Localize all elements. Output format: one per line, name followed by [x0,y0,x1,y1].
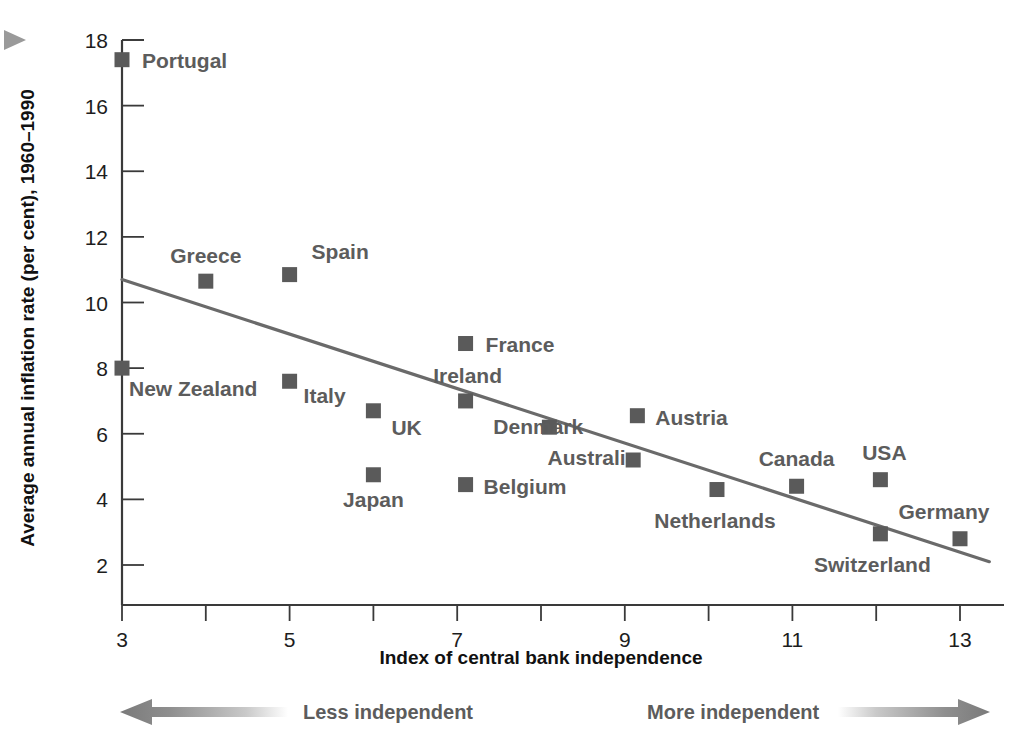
data-point: Belgium [458,475,566,498]
y-tick-label: 10 [85,292,108,315]
y-axis-title: Average annual inflation rate (per cent)… [17,89,38,547]
data-point-label: Australia [548,446,638,469]
data-point-marker [458,477,473,492]
data-point-marker [198,274,213,289]
x-tick-label: 5 [284,628,296,651]
data-point-marker [458,393,473,408]
y-tick-label: 2 [96,554,108,577]
data-point-label: USA [862,441,906,464]
data-point: New Zealand [115,361,258,401]
data-point-marker [709,482,724,497]
more-independent-annotation: More independent [647,699,990,725]
y-tick-label: 6 [96,423,108,446]
data-point: France [458,333,554,356]
data-point-marker [626,453,641,468]
data-point: USA [862,441,906,488]
x-tick-label: 11 [781,628,803,651]
data-point-marker [630,408,645,423]
data-point: Ireland [433,364,502,409]
y-tick-label: 12 [85,226,108,249]
data-point-label: New Zealand [129,377,257,400]
less-independent-label: Less independent [303,701,473,723]
right-arrow-icon [838,699,990,725]
data-point-label: Spain [312,240,369,263]
data-point: UK [366,403,422,439]
data-point-label: Germany [898,500,989,523]
data-point-marker [282,267,297,282]
data-point-label: Belgium [484,475,567,498]
data-point-label: Netherlands [654,509,775,532]
data-point-marker [282,374,297,389]
data-point-label: France [486,333,555,356]
data-point-label: Italy [304,384,346,407]
chart-page: 2468101214161835791113 PortugalNew Zeala… [0,0,1016,745]
data-point: Italy [282,374,346,408]
data-point: Japan [343,467,404,511]
data-point-marker [953,531,968,546]
x-tick-label: 3 [116,628,128,651]
data-points: PortugalNew ZealandGreeceSpainItalyUKJap… [115,49,990,576]
x-tick-label: 13 [948,628,971,651]
y-tick-label: 8 [96,357,108,380]
data-point: Germany [898,500,989,547]
less-independent-annotation: Less independent [120,699,473,725]
data-point-label: Japan [343,488,404,511]
data-point-label: UK [391,416,421,439]
scatter-plot: 2468101214161835791113 PortugalNew Zeala… [0,0,1016,745]
data-point-label: Greece [170,244,241,267]
data-point: Spain [282,240,369,283]
data-point-marker [873,472,888,487]
data-point: Canada [759,447,835,494]
data-point-marker [789,479,804,494]
data-point: Austria [630,406,728,429]
data-point-marker [115,52,130,67]
data-point: Netherlands [654,482,775,532]
x-axis-title: Index of central bank independence [379,647,702,668]
data-point-label: Ireland [433,364,502,387]
data-point-marker [873,526,888,541]
data-point-marker [366,467,381,482]
play-triangle-icon [4,30,26,50]
data-point: Greece [170,244,241,289]
y-tick-label: 16 [85,95,108,118]
left-arrow-icon [120,699,288,725]
data-point-label: Denmark [493,415,583,438]
y-tick-label: 4 [96,488,108,511]
data-point: Portugal [115,49,228,72]
data-point-marker [366,403,381,418]
data-point: Switzerland [814,526,931,576]
data-point-marker [115,361,130,376]
data-point-label: Portugal [142,49,227,72]
more-independent-label: More independent [647,701,820,723]
data-point-label: Canada [759,447,835,470]
data-point-marker [458,336,473,351]
data-point-label: Austria [655,406,728,429]
y-tick-label: 14 [85,160,109,183]
y-tick-label: 18 [85,29,108,52]
data-point-label: Switzerland [814,553,931,576]
